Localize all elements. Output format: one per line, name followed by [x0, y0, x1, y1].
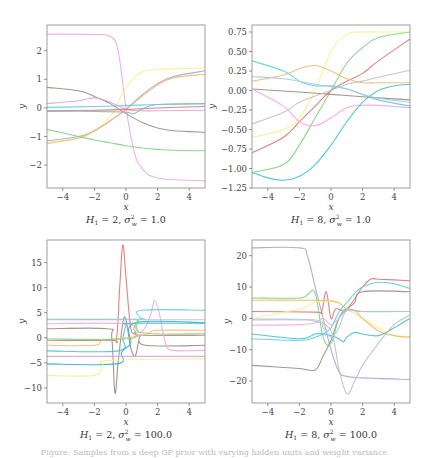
series-line-s1: [252, 32, 410, 137]
series-line-s2: [47, 317, 205, 394]
panel-title: H1 = 2, σ2w = 100.0: [79, 428, 172, 442]
x-tick-label: −2: [88, 192, 101, 202]
x-tick-label: 2: [155, 407, 160, 417]
series-line-s3: [252, 39, 410, 153]
panel-title: H1 = 8, σ2w = 100.0: [284, 428, 377, 442]
x-tick-label: 2: [155, 192, 160, 202]
series-group: [47, 245, 205, 394]
y-tick-label: −20: [229, 376, 247, 386]
series-line-s8: [47, 330, 205, 346]
y-axis-label: y: [17, 103, 27, 110]
x-axis-label: x: [123, 417, 128, 427]
x-tick-label: 4: [186, 192, 191, 202]
series-group: [252, 32, 410, 180]
y-tick-label: 0.50: [228, 47, 247, 57]
chart-panel-2: −4−2024−1.25−1.00−0.75−0.50−0.250.000.25…: [207, 25, 410, 227]
y-tick-label: 1: [37, 74, 42, 84]
chart-panel-3: −4−2024−10−5051015xyH1 = 2, σ2w = 100.0: [17, 240, 205, 442]
y-tick-label: −10: [24, 383, 42, 393]
y-axis-label: y: [17, 318, 27, 325]
y-axis-label: y: [222, 318, 232, 325]
x-tick-label: −2: [293, 407, 306, 417]
y-tick-label: 2: [37, 46, 42, 56]
x-tick-label: 4: [391, 407, 396, 417]
x-tick-label: −4: [57, 407, 70, 417]
series-group: [252, 247, 410, 394]
series-line-s4: [47, 310, 205, 320]
y-tick-label: −5: [29, 358, 42, 368]
y-axis-label: y: [207, 103, 217, 110]
series-group: [47, 34, 205, 181]
x-tick-label: 0: [328, 192, 333, 202]
figure-caption: Figure: Samples from a deep GP prior wit…: [41, 448, 388, 457]
x-tick-label: −4: [262, 192, 275, 202]
y-tick-label: 20: [236, 251, 247, 261]
x-tick-label: 0: [328, 407, 333, 417]
y-tick-label: −2: [29, 160, 42, 170]
x-tick-label: −2: [293, 192, 306, 202]
y-tick-label: −0.25: [221, 105, 247, 115]
x-tick-label: 2: [360, 192, 365, 202]
y-tick-label: −0.50: [221, 125, 247, 135]
y-tick-label: 15: [31, 258, 42, 268]
y-tick-label: 0.00: [228, 86, 247, 96]
x-tick-label: 0: [123, 192, 128, 202]
y-tick-label: −1: [29, 132, 42, 142]
figure-canvas: −4−2024−2−1012xyH1 = 2, σ2w = 1.0−4−2024…: [0, 0, 429, 458]
chart-panel-1: −4−2024−2−1012xyH1 = 2, σ2w = 1.0: [17, 25, 205, 227]
y-tick-label: −1.25: [221, 183, 247, 193]
series-line-s2: [252, 32, 410, 172]
plot-frame: [252, 25, 410, 188]
panel-title: H1 = 8, σ2w = 1.0: [290, 213, 371, 227]
x-tick-label: 0: [123, 407, 128, 417]
y-tick-label: −1.00: [221, 164, 247, 174]
y-tick-label: −10: [229, 345, 247, 355]
y-tick-label: 10: [236, 282, 247, 292]
y-tick-label: −0.75: [221, 144, 247, 154]
x-tick-label: 2: [360, 407, 365, 417]
x-axis-label: x: [123, 202, 128, 212]
y-tick-label: 5: [37, 308, 42, 318]
x-axis-label: x: [328, 202, 333, 212]
y-tick-label: 0: [37, 103, 42, 113]
panel-title: H1 = 2, σ2w = 1.0: [85, 213, 166, 227]
chart-panel-4: −4−2024−20−1001020xyH1 = 8, σ2w = 100.0: [222, 240, 410, 442]
x-tick-label: 4: [391, 192, 396, 202]
series-line-s7: [47, 359, 205, 376]
y-tick-label: 0: [37, 333, 42, 343]
y-tick-label: 0: [242, 313, 247, 323]
y-tick-label: 0.75: [228, 27, 247, 37]
x-tick-label: 4: [186, 407, 191, 417]
x-tick-label: −2: [88, 407, 101, 417]
x-axis-label: x: [328, 417, 333, 427]
x-tick-label: −4: [262, 407, 275, 417]
y-tick-label: 0.25: [228, 66, 247, 76]
y-tick-label: 10: [31, 283, 42, 293]
x-tick-label: −4: [57, 192, 70, 202]
series-line-s6: [47, 321, 205, 365]
